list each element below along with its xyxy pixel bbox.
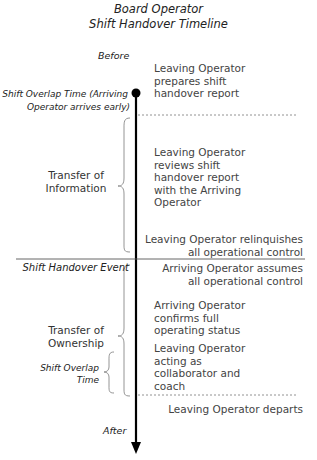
event-line: operating status xyxy=(154,324,245,337)
phase-transfer-information: Transfer of Information xyxy=(40,169,112,195)
event-leaving-departs: Leaving Operator departs xyxy=(168,403,303,416)
brace-shift-overlap-icon xyxy=(104,352,114,393)
brace-transfer-ownership-icon xyxy=(118,265,130,396)
sub-phase-shift-overlap: Shift Overlap Time xyxy=(40,362,99,386)
phase-transfer-ownership: Transfer of Ownership xyxy=(40,324,112,350)
event-line: Leaving Operator xyxy=(154,342,245,355)
event-relinquish-control: Leaving Operator relinquishes all operat… xyxy=(145,233,303,258)
event-line: Leaving Operator relinquishes xyxy=(145,233,303,246)
event-line: Operator xyxy=(154,196,245,209)
phase-label-line: Ownership xyxy=(40,337,112,350)
event-collaborate-coach: Leaving Operator acting as collaborator … xyxy=(154,342,245,392)
timeline-arrowhead-icon xyxy=(131,442,141,454)
handover-event-label: Shift Handover Event xyxy=(22,262,129,273)
event-line: confirms full xyxy=(154,312,245,325)
phase-label-line: Transfer of xyxy=(40,324,112,337)
event-line: handover report xyxy=(154,87,245,100)
sub-phase-label-line: Time xyxy=(40,374,99,386)
event-line: all operational control xyxy=(145,246,303,259)
timeline-start-dot-icon xyxy=(132,89,141,98)
event-line: Leaving Operator departs xyxy=(168,403,303,416)
event-line: reviews shift xyxy=(154,159,245,172)
event-line: prepares shift xyxy=(154,75,245,88)
event-line: acting as xyxy=(154,355,245,368)
event-prepare-report: Leaving Operator prepares shift handover… xyxy=(154,62,245,100)
after-label: After xyxy=(103,425,126,436)
event-line: all operational control xyxy=(162,275,303,288)
event-line: Leaving Operator xyxy=(154,146,245,159)
before-label: Before xyxy=(98,50,129,61)
event-line: Arriving Operator xyxy=(154,299,245,312)
overlap-start-label-line2: Operator arrives early) xyxy=(27,102,130,112)
sub-phase-label-line: Shift Overlap xyxy=(40,362,99,374)
event-assume-control: Arriving Operator assumes all operationa… xyxy=(162,262,303,287)
event-line: handover report xyxy=(154,171,245,184)
event-confirm-status: Arriving Operator confirms full operatin… xyxy=(154,299,245,337)
event-line: coach xyxy=(154,380,245,393)
phase-label-line: Information xyxy=(40,182,112,195)
diagram-subtitle: Shift Handover Timeline xyxy=(0,17,317,32)
phase-label-line: Transfer of xyxy=(40,169,112,182)
event-line: with the Arriving xyxy=(154,184,245,197)
brace-transfer-information-icon xyxy=(118,118,130,252)
event-line: collaborator and xyxy=(154,367,245,380)
overlap-start-label-line1: Shift Overlap Time (Arriving xyxy=(2,89,128,99)
event-review-report: Leaving Operator reviews shift handover … xyxy=(154,146,245,209)
event-line: Leaving Operator xyxy=(154,62,245,75)
diagram-title: Board Operator xyxy=(0,2,317,17)
event-line: Arriving Operator assumes xyxy=(162,262,303,275)
